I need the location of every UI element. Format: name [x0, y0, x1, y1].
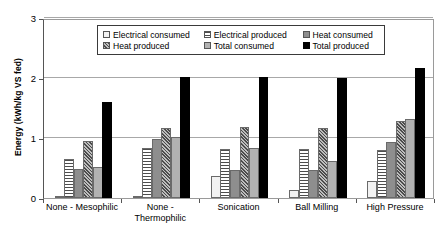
bar [171, 137, 181, 198]
bar [152, 139, 162, 198]
legend-label: Total consumed [214, 41, 274, 51]
x-axis-category-label: Sonication [199, 202, 277, 213]
legend-swatch-icon [204, 31, 211, 38]
legend-swatch-icon [103, 42, 110, 49]
bar [405, 119, 415, 198]
bar [180, 77, 190, 198]
y-axis-tick-label: 3 [14, 14, 36, 24]
legend-label: Electrical produced [214, 30, 287, 40]
bar [308, 170, 318, 198]
x-axis-category-label: Ball Milling [278, 202, 356, 213]
legend-label: Total produced [313, 41, 369, 51]
legend-item-total-consumed: Total consumed [204, 41, 303, 51]
bar [142, 148, 152, 198]
bar-chart: Energy (kWh/kg VS fed) 0123 None - Mesop… [0, 0, 446, 241]
y-axis-tick-label: 0 [14, 194, 36, 204]
legend-label: Electrical consumed [113, 30, 190, 40]
x-axis-category-label: None - Thermophilic [121, 202, 199, 224]
bar [74, 169, 84, 198]
y-axis-title: Energy (kWh/kg VS fed) [13, 27, 23, 187]
bar [230, 170, 240, 198]
legend-swatch-icon [303, 31, 310, 38]
legend-item-total-produced: Total produced [303, 41, 380, 51]
bar [64, 159, 74, 198]
bar [367, 181, 377, 198]
bar [249, 148, 259, 198]
bar [299, 149, 309, 198]
legend-item-heat-produced: Heat produced [103, 41, 204, 51]
gridline [44, 77, 433, 78]
bar [337, 78, 347, 198]
bar [377, 150, 387, 198]
legend-swatch-icon [103, 31, 110, 38]
bar [386, 142, 396, 198]
legend-label: Heat consumed [313, 30, 373, 40]
legend-item-electrical-produced: Electrical produced [204, 30, 303, 40]
bar [133, 196, 143, 198]
x-axis-tick [434, 199, 435, 203]
legend-row: Heat produced Total consumed Total produ… [103, 40, 380, 51]
legend: Electrical consumed Electrical produced … [97, 25, 385, 55]
bar [102, 102, 112, 198]
bar [211, 176, 221, 198]
bar [93, 167, 103, 198]
legend-label: Heat produced [113, 41, 169, 51]
bar [83, 141, 93, 198]
x-axis-category-label: None - Mesophilic [43, 202, 121, 213]
bar [161, 128, 171, 198]
legend-swatch-icon [204, 42, 211, 49]
bar [415, 68, 425, 198]
gridline [44, 17, 433, 18]
bar [259, 77, 269, 198]
x-axis-category-label: High Pressure [356, 202, 434, 213]
bar [240, 127, 250, 198]
legend-item-electrical-consumed: Electrical consumed [103, 30, 204, 40]
y-axis-tick-label: 1 [14, 134, 36, 144]
bar [318, 128, 328, 198]
bar [327, 161, 337, 198]
legend-row: Electrical consumed Electrical produced … [103, 29, 380, 40]
bar [396, 121, 406, 198]
legend-swatch-icon [303, 42, 310, 49]
bar [289, 190, 299, 198]
y-axis-tick-label: 2 [14, 74, 36, 84]
bar [220, 149, 230, 198]
bar [55, 196, 65, 198]
legend-item-heat-consumed: Heat consumed [303, 30, 380, 40]
